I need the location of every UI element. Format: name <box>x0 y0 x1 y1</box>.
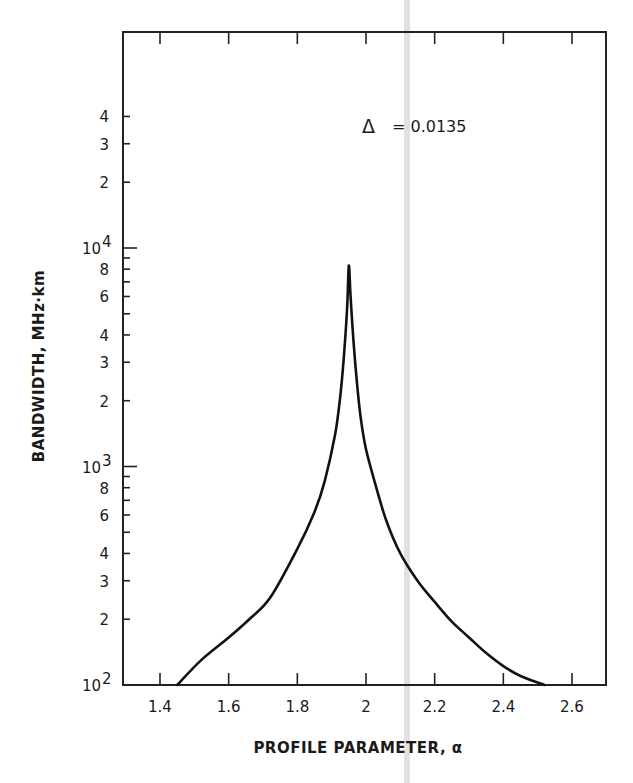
bandwidth-curve <box>177 266 544 685</box>
x-tick-label: 1.8 <box>285 698 309 716</box>
y-tick-exponent: 3 <box>102 452 112 470</box>
y-tick-label: 6 <box>99 507 109 525</box>
delta-symbol: Δ <box>362 115 375 137</box>
x-tick-label: 2 <box>361 698 371 716</box>
y-tick-label-major: 10 <box>82 677 101 695</box>
y-tick-label: 2 <box>99 611 109 629</box>
x-tick-label: 2.6 <box>560 698 584 716</box>
y-tick-label: 6 <box>99 288 109 306</box>
y-tick-label: 4 <box>99 545 109 563</box>
y-tick-label-major: 10 <box>82 459 101 477</box>
y-axis-title: BANDWIDTH, MHz·km <box>30 270 48 462</box>
y-tick-label: 3 <box>99 573 109 591</box>
y-tick-label: 4 <box>99 327 109 345</box>
y-tick-label: 2 <box>99 393 109 411</box>
y-tick-label: 3 <box>99 136 109 154</box>
x-axis-title: PROFILE PARAMETER, α <box>253 739 462 757</box>
delta-value: = 0.0135 <box>392 117 466 136</box>
bandwidth-chart: 1022346810323468104234 1.41.61.822.22.42… <box>0 0 633 783</box>
delta-annotation: Δ = 0.0135 <box>362 115 466 137</box>
y-tick-label: 8 <box>99 480 109 498</box>
y-tick-exponent: 4 <box>102 233 112 251</box>
y-tick-exponent: 2 <box>102 670 112 688</box>
x-tick-label: 2.2 <box>423 698 447 716</box>
y-axis-ticks: 1022346810323468104234 <box>82 108 137 695</box>
y-tick-label: 8 <box>99 261 109 279</box>
y-tick-label-major: 10 <box>82 240 101 258</box>
y-tick-label: 4 <box>99 108 109 126</box>
y-tick-label: 2 <box>99 174 109 192</box>
x-tick-label: 1.4 <box>148 698 172 716</box>
x-tick-label: 1.6 <box>217 698 241 716</box>
y-tick-label: 3 <box>99 354 109 372</box>
x-tick-label: 2.4 <box>491 698 515 716</box>
